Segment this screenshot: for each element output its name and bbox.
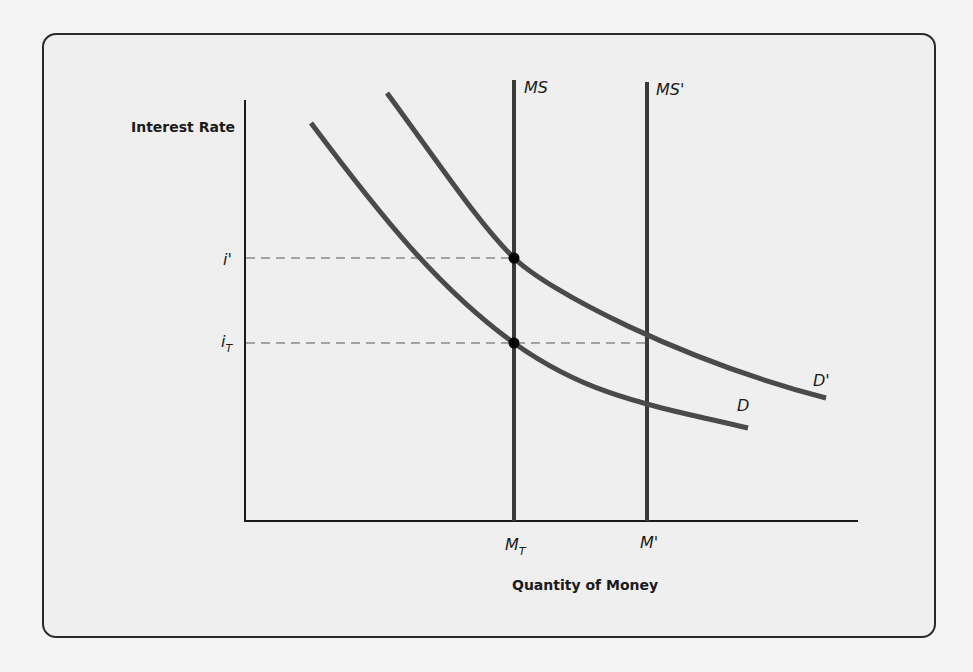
i-t-subscript: T bbox=[225, 342, 233, 355]
equilibrium-point-i-prime bbox=[509, 253, 520, 264]
d-prime-curve bbox=[387, 93, 826, 398]
m-t-label: MT bbox=[505, 535, 527, 558]
d-label: D bbox=[737, 396, 749, 415]
equilibrium-point-i-t bbox=[509, 338, 520, 349]
i-t-label: iT bbox=[221, 332, 233, 355]
m-t-subscript: T bbox=[519, 545, 527, 558]
m-prime-label: M' bbox=[640, 533, 658, 552]
ms-prime-label: MS' bbox=[656, 80, 684, 99]
y-axis-label: Interest Rate bbox=[131, 119, 235, 135]
ms-label: MS bbox=[524, 78, 548, 97]
x-axis-label: Quantity of Money bbox=[512, 577, 658, 593]
money-market-chart: Interest Rate Quantity of Money MS MS' D… bbox=[0, 0, 973, 672]
d-curve bbox=[311, 123, 748, 428]
d-prime-label: D' bbox=[813, 371, 830, 390]
i-prime-label: i' bbox=[223, 250, 232, 269]
m-t-main: M bbox=[505, 535, 519, 554]
